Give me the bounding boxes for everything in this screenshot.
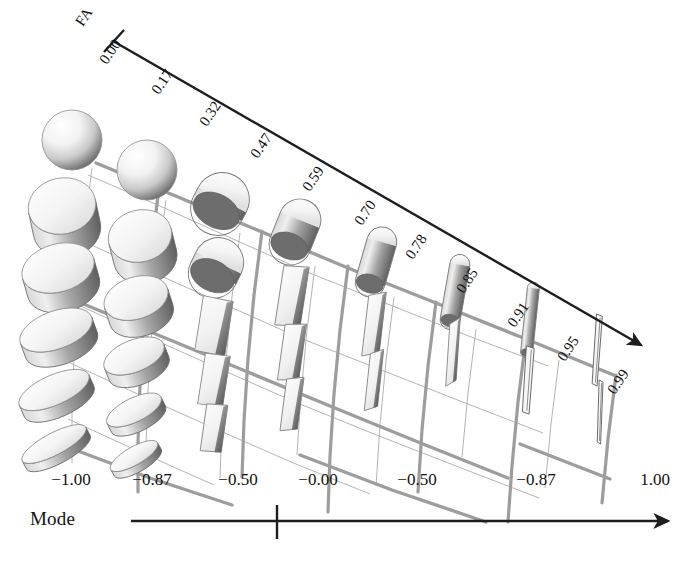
tensor-glyph: [13, 361, 100, 431]
tensor-glyph: [352, 223, 401, 300]
tensor-glyph: [102, 386, 171, 443]
mode-axis-title: Mode: [30, 508, 75, 530]
mode-tick-label: −0.87: [132, 470, 171, 490]
figure-canvas: [0, 0, 697, 570]
tensor-glyph: [263, 193, 327, 272]
tensor-glyph: [272, 373, 311, 435]
tensor-glyph: [182, 290, 247, 363]
tensor-glyph: [597, 380, 603, 444]
mode-tick-label: −1.00: [51, 470, 90, 490]
tensor-glyph: [359, 347, 390, 413]
tensor-glyph: [591, 314, 602, 386]
mode-tick-label: 1.00: [640, 470, 670, 490]
tensor-glyph-figure: FA Mode 0.000.170.320.470.590.700.780.85…: [0, 0, 697, 570]
tensor-glyph: [180, 229, 252, 307]
tensor-glyph: [42, 110, 102, 170]
mode-axis: [131, 505, 668, 539]
mode-tick-label: −0.50: [397, 470, 436, 490]
mode-tick-label: −0.50: [218, 470, 257, 490]
tensor-glyph: [98, 329, 174, 395]
tensor-glyph: [268, 318, 316, 386]
tensor-glyph: [191, 398, 237, 457]
tensor-glyph: [117, 140, 177, 200]
mode-tick-label: −0.00: [298, 470, 337, 490]
tensor-glyph: [98, 268, 179, 345]
mode-tick-label: −0.87: [516, 470, 555, 490]
tensor-glyph: [187, 347, 241, 412]
